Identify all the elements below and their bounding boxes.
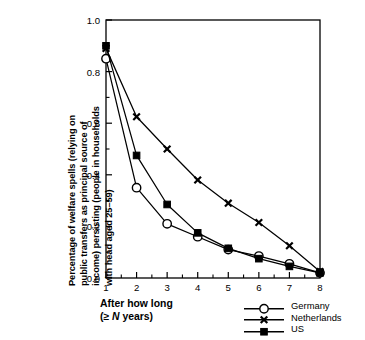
plot-svg [106, 20, 320, 278]
data-point [133, 152, 140, 159]
legend-label: Germany [285, 300, 330, 311]
legend-point [261, 328, 268, 335]
data-point [132, 184, 140, 192]
x-axis-title-line2: (≥ N years) [100, 311, 230, 324]
legend-item[interactable]: US [243, 323, 363, 335]
x-axis-title: After how long (≥ N years) [100, 298, 230, 323]
data-point [163, 220, 171, 228]
legend-item[interactable]: Germany [243, 300, 363, 312]
x-axis-title-suffix: years) [120, 311, 154, 322]
x-tick-label: 5 [218, 282, 238, 293]
axis-box [106, 20, 320, 278]
legend-marker-svg [243, 326, 285, 338]
data-series-layer [102, 43, 324, 278]
legend-marker [243, 300, 285, 312]
data-point [225, 200, 232, 207]
x-axis-title-prefix: (≥ [100, 311, 112, 322]
legend-label: Netherlands [285, 312, 342, 323]
legend-marker [243, 312, 285, 324]
x-tick-label: 8 [310, 282, 330, 293]
chart-legend: GermanyNetherlandsUS [243, 300, 363, 335]
legend-label: US [285, 323, 304, 334]
data-point [103, 43, 110, 50]
series-us [103, 43, 324, 277]
data-point [164, 201, 171, 208]
x-tick-label: 4 [188, 282, 208, 293]
data-point [256, 255, 263, 262]
data-point [164, 146, 171, 153]
series-line [106, 46, 320, 273]
data-point [133, 113, 140, 120]
data-point [317, 270, 324, 277]
data-point [286, 263, 293, 270]
axis-frame [106, 20, 320, 278]
x-tick-label: 1 [96, 282, 116, 293]
x-axis-title-line1: After how long [100, 298, 230, 311]
x-axis-title-variable: N [112, 311, 120, 322]
data-point [194, 177, 201, 184]
legend-marker [243, 323, 285, 335]
x-tick-label: 6 [249, 282, 269, 293]
legend-item[interactable]: Netherlands [243, 312, 363, 324]
chart-figure: Percentage of welfare spells (relying on… [0, 0, 365, 340]
data-point [286, 242, 293, 249]
axis-tick-marks [106, 20, 320, 278]
x-tick-label: 2 [127, 282, 147, 293]
x-tick-label: 3 [157, 282, 177, 293]
data-point [194, 230, 201, 237]
data-point [225, 245, 232, 252]
plot-area [106, 20, 320, 278]
series-line [106, 48, 320, 271]
data-point [256, 219, 263, 226]
x-tick-label: 7 [279, 282, 299, 293]
